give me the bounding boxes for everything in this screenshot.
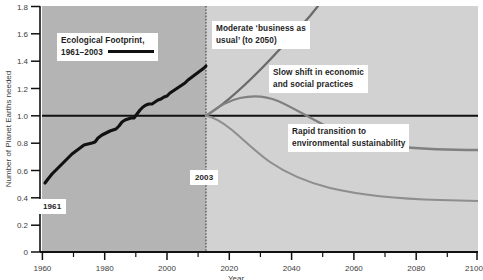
callout-rapid-transition: Rapid transition to environmental sustai… <box>288 124 409 152</box>
legend-line-1: Ecological Footprint, <box>61 35 154 47</box>
callout-business-as-usual: Moderate ‘business as usual’ (to 2050) <box>212 21 310 49</box>
y-tick-label: 1.2 <box>17 85 29 94</box>
x-tick-label: 2060 <box>345 264 363 273</box>
callout-bau-line-2: usual’ (to 2050) <box>216 35 306 47</box>
callout-rapid-line-1: Rapid transition to <box>292 126 405 138</box>
legend-line-2: 1961–2003 <box>61 48 103 57</box>
y-tick-label: 0.2 <box>17 221 29 230</box>
x-tick-label: 2000 <box>158 264 176 273</box>
y-axis-ticks <box>31 7 40 253</box>
y-tick-label: 0 <box>24 248 29 257</box>
callout-slow-line-2: and social practices <box>273 79 364 91</box>
x-tick-label: 2100 <box>465 264 483 273</box>
y-tick-label: 0.4 <box>17 194 29 203</box>
x-axis-title: Year <box>228 274 245 280</box>
y-tick-label: 0.6 <box>17 167 29 176</box>
y-tick-label: 0.8 <box>17 139 29 148</box>
ecological-footprint-chart: 1.8 1.6 1.4 1.2 1.0 0.8 0.6 0.4 0.2 0 Nu… <box>0 0 483 280</box>
y-axis-title: Number of Planet Earths needed <box>4 71 13 188</box>
x-tick-label: 1960 <box>34 264 52 273</box>
y-tick-label: 1.4 <box>17 57 29 66</box>
marker-label-1961: 1961 <box>38 199 66 214</box>
callout-slow-shift: Slow shift in economic and social practi… <box>269 65 368 93</box>
callout-slow-line-1: Slow shift in economic <box>273 67 364 79</box>
legend-line-2-wrapper: 1961–2003 <box>61 47 154 59</box>
y-tick-label: 1.6 <box>17 30 29 39</box>
x-tick-label: 2080 <box>407 264 425 273</box>
y-tick-label: 1.8 <box>17 3 29 12</box>
marker-label-2003: 2003 <box>190 170 218 185</box>
callout-bau-line-1: Moderate ‘business as <box>216 23 306 35</box>
x-tick-label: 2020 <box>220 264 238 273</box>
legend-ecological-footprint: Ecological Footprint, 1961–2003 <box>57 33 158 61</box>
callout-rapid-line-2: environmental sustainability <box>292 138 405 150</box>
y-axis-tick-labels: 1.8 1.6 1.4 1.2 1.0 0.8 0.6 0.4 0.2 0 <box>17 3 29 258</box>
y-tick-label: 1.0 <box>17 112 29 121</box>
x-axis-ticks <box>42 252 477 260</box>
x-axis-tick-labels: 1960 1980 2000 2020 2040 2060 2080 2100 <box>34 264 483 273</box>
legend-line-swatch-icon <box>108 50 154 53</box>
x-tick-label: 1980 <box>96 264 114 273</box>
x-tick-label: 2040 <box>283 264 301 273</box>
